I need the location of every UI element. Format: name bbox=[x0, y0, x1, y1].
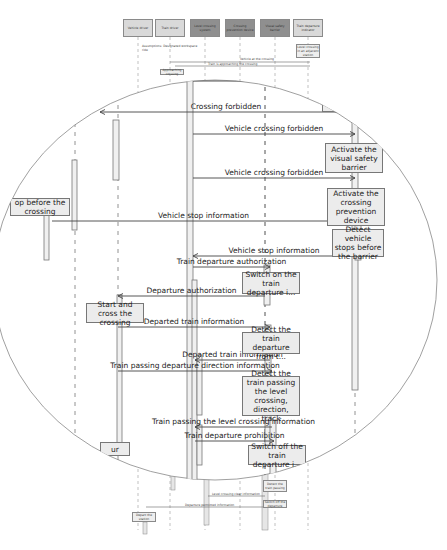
action-box: Detect vehicle stops before the barrier bbox=[332, 229, 384, 257]
message-label: Crossing forbidden bbox=[191, 102, 262, 111]
message-label: Vehicle crossing forbidden bbox=[225, 168, 324, 177]
action-box: Start and cross the crossing bbox=[86, 303, 144, 323]
action-box: Switch off the train departure i... bbox=[248, 445, 306, 465]
sequence-diagram: Vehicle driverTrain driverLevel crossing… bbox=[0, 0, 447, 550]
action-box: Activate the crossing prevention device bbox=[327, 188, 385, 226]
message-label: Vehicle stop information bbox=[158, 211, 249, 220]
action-box: op before the crossing bbox=[10, 198, 70, 216]
message-label: Vehicle stop information bbox=[228, 246, 319, 255]
message-label: Departed train information bbox=[144, 317, 245, 326]
message-label: Vehicle crossing forbidden bbox=[225, 124, 324, 133]
action-box: Activate the visual safety barrier bbox=[325, 143, 383, 173]
message-label: Departure authorization bbox=[146, 286, 236, 295]
message-label: Train departure prohibition bbox=[184, 431, 284, 440]
action-box: Detect the train departure from t... bbox=[242, 332, 300, 354]
action-box: Detect the train passing the level cross… bbox=[242, 376, 300, 416]
message-label: Train departure authorization bbox=[177, 257, 287, 266]
action-box: Switch on the train departure i... bbox=[242, 272, 300, 294]
